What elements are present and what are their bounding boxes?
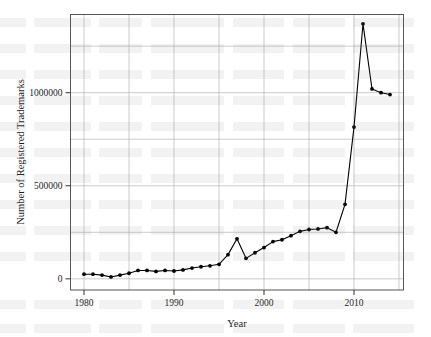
page-bleed-text: [0, 252, 431, 261]
data-point: [163, 269, 167, 273]
data-point: [127, 271, 131, 275]
page-bleed-text: [0, 96, 431, 105]
data-point: [235, 237, 239, 241]
data-point: [280, 238, 284, 242]
page-bleed-text: [0, 44, 431, 53]
y-tick-label: 0: [58, 274, 63, 284]
chart-figure: 1980199020002010 05000001000000 Year Num…: [0, 0, 431, 337]
page-bleed-text: [0, 148, 431, 157]
page-bleed-text: [0, 70, 431, 79]
page-bleed-text: [0, 200, 431, 209]
page-bleed-text: [0, 174, 431, 183]
data-point: [379, 91, 383, 95]
data-point: [190, 266, 194, 270]
data-point: [118, 273, 122, 277]
data-point: [82, 272, 86, 276]
data-point: [217, 262, 221, 266]
data-point: [271, 240, 275, 244]
data-point: [136, 269, 140, 273]
data-point: [262, 246, 266, 250]
page-bleed-text: [0, 300, 431, 309]
data-point: [91, 272, 95, 276]
data-point: [181, 268, 185, 272]
data-point: [154, 269, 158, 273]
page-bleed-text: [0, 122, 431, 131]
page-bleed-text: [0, 324, 431, 333]
data-point: [199, 265, 203, 269]
data-point: [208, 264, 212, 268]
data-point: [145, 269, 149, 273]
data-point: [370, 87, 374, 91]
data-point: [109, 275, 113, 279]
page-bleed-text: [0, 226, 431, 235]
data-point: [100, 273, 104, 277]
data-point: [172, 269, 176, 273]
page-bleed-text: [0, 18, 431, 27]
